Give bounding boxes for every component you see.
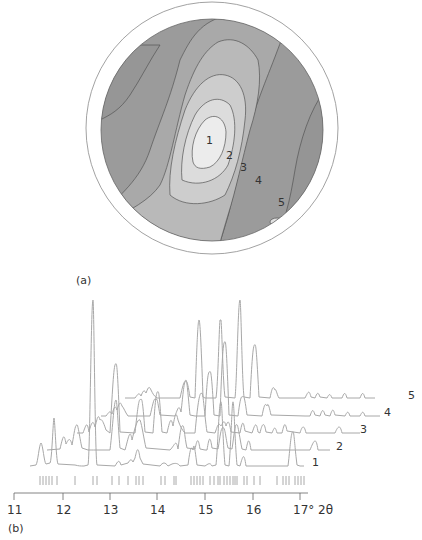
trace-label-3: 3 xyxy=(360,423,367,436)
x-axis xyxy=(14,493,308,500)
x-tick-16: 16 xyxy=(246,503,261,517)
x-tick-11: 11 xyxy=(7,503,22,517)
reference-stick-pattern xyxy=(40,476,304,485)
trace-label-5: 5 xyxy=(408,389,415,402)
trace-label-1: 1 xyxy=(312,456,319,469)
trace-5 xyxy=(125,300,375,398)
trace-label-4: 4 xyxy=(384,406,391,419)
panel-a-label: (a) xyxy=(76,274,91,287)
x-tick-17-2theta: 17° 2θ xyxy=(293,503,333,517)
contour-label-3: 3 xyxy=(240,161,247,174)
contour-label-5: 5 xyxy=(278,196,285,209)
figure: 1 2 3 4 5 (a) 11 12 13 14 15 16 17° 2θ 1… xyxy=(0,0,422,540)
pole-figure: 1 2 3 4 5 (a) xyxy=(76,2,338,287)
panel-b-label: (b) xyxy=(8,522,24,535)
x-tick-15: 15 xyxy=(198,503,213,517)
contour-label-4: 4 xyxy=(255,174,262,187)
x-tick-12: 12 xyxy=(56,503,71,517)
x-tick-14: 14 xyxy=(150,503,165,517)
contour-label-2: 2 xyxy=(226,149,233,162)
x-tick-13: 13 xyxy=(103,503,118,517)
contour-label-1: 1 xyxy=(206,134,213,147)
diffraction-patterns xyxy=(30,300,380,466)
trace-label-2: 2 xyxy=(336,440,343,453)
